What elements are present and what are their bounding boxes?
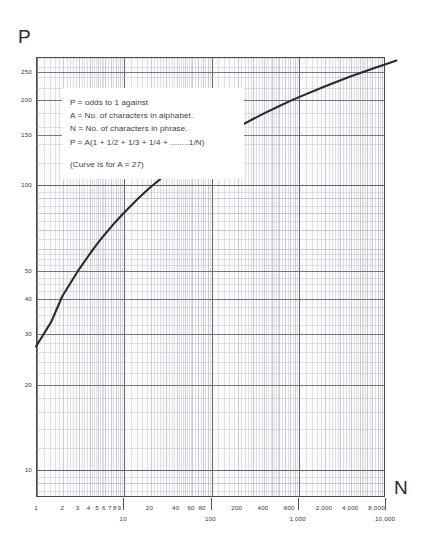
grid-line-horizontal — [37, 67, 384, 68]
grid-line-horizontal — [37, 315, 384, 316]
grid-line-horizontal — [37, 206, 384, 207]
x-tick-mark — [385, 498, 386, 510]
grid-line-horizontal — [37, 192, 384, 193]
annotation-line-2: N = No. of characters in phrase. — [70, 122, 238, 135]
grid-line-horizontal — [37, 185, 384, 186]
grid-line-horizontal — [37, 373, 384, 374]
x-tick-label: 10 — [120, 515, 127, 522]
x-axis-name-label: N — [394, 477, 408, 499]
y-tick-label: 10 — [0, 466, 32, 473]
grid-line-horizontal — [37, 198, 384, 199]
x-tick-label: 4,000 — [342, 504, 358, 511]
x-tick-label: 800 — [284, 504, 295, 511]
y-axis-name-label: P — [18, 26, 31, 48]
x-tick-label: 40 — [172, 504, 179, 511]
grid-line-horizontal — [37, 254, 384, 255]
grid-line-horizontal — [37, 259, 384, 260]
y-tick-label: 50 — [0, 267, 32, 274]
x-tick-label: 4 — [87, 504, 91, 511]
grid-line-horizontal — [37, 284, 384, 285]
grid-line-horizontal — [37, 352, 384, 353]
x-tick-label: 20 — [146, 504, 153, 511]
x-tick-mark — [298, 498, 299, 510]
grid-line-horizontal — [37, 491, 384, 492]
grid-line-horizontal — [37, 221, 384, 222]
grid-line-horizontal — [37, 448, 384, 449]
x-tick-mark — [123, 498, 124, 510]
x-tick-label: 5 — [95, 504, 99, 511]
x-tick-label: 200 — [231, 504, 242, 511]
x-tick-label: 100 — [205, 515, 216, 522]
grid-line-horizontal — [37, 429, 384, 430]
y-tick-label: 30 — [0, 330, 32, 337]
chart-page: P N 1020304050100150200250 1234567891020… — [0, 0, 426, 553]
y-tick-label: 40 — [0, 294, 32, 301]
x-tick-label: 1,000 — [290, 515, 306, 522]
y-tick-label: 150 — [0, 131, 32, 138]
grid-line-horizontal — [37, 249, 384, 250]
grid-line-horizontal — [37, 412, 384, 413]
y-tick-label: 250 — [0, 68, 32, 75]
x-tick-mark — [211, 498, 212, 510]
x-tick-label: 7 — [108, 504, 112, 511]
x-tick-label: 2 — [60, 504, 64, 511]
annotation-line-3: P = A(1 + 1/2 + 1/3 + 1/4 + ........1/N) — [70, 136, 238, 149]
x-tick-label: 3 — [76, 504, 80, 511]
annotation-line-0: P = odds to 1 against — [70, 96, 238, 109]
annotation-note: (Curve is for A = 27) — [70, 158, 238, 171]
grid-line-horizontal — [37, 343, 384, 344]
grid-line-horizontal — [37, 362, 384, 363]
x-tick-label: 8,000 — [368, 504, 384, 511]
x-tick-label: 2,000 — [316, 504, 332, 511]
grid-line-horizontal — [37, 325, 384, 326]
grid-line-horizontal — [37, 334, 384, 335]
x-tick-label: 10,000 — [375, 515, 395, 522]
grid-line-horizontal — [37, 213, 384, 214]
grid-line-horizontal — [37, 470, 384, 471]
grid-line-horizontal — [37, 271, 384, 272]
y-tick-label: 20 — [0, 380, 32, 387]
grid-line-horizontal — [37, 477, 384, 478]
grid-line-horizontal — [37, 291, 384, 292]
grid-line-horizontal — [37, 398, 384, 399]
x-tick-label: 1 — [34, 504, 38, 511]
grid-line-horizontal — [37, 385, 384, 386]
x-tick-label: 6 — [102, 504, 106, 511]
grid-line-vertical — [384, 58, 385, 496]
grid-line-horizontal — [37, 58, 384, 59]
x-tick-label: 80 — [198, 504, 205, 511]
y-tick-label: 200 — [0, 95, 32, 102]
grid-line-horizontal — [37, 239, 384, 240]
grid-line-horizontal — [37, 299, 384, 300]
x-tick-label: 9 — [117, 504, 121, 511]
grid-line-horizontal — [37, 307, 384, 308]
grid-line-horizontal — [37, 77, 384, 78]
x-tick-label: 400 — [258, 504, 269, 511]
grid-line-horizontal — [37, 72, 384, 73]
y-tick-label: 100 — [0, 181, 32, 188]
grid-line-horizontal — [37, 265, 384, 266]
annotation-line-1: A = No. of characters in alphabet. — [70, 109, 238, 122]
x-tick-label: 8 — [113, 504, 117, 511]
grid-line-horizontal — [37, 278, 384, 279]
annotation-textbox: P = odds to 1 against A = No. of charact… — [62, 88, 244, 179]
x-tick-label: 60 — [187, 504, 194, 511]
grid-line-horizontal — [37, 230, 384, 231]
grid-line-horizontal — [37, 483, 384, 484]
annotation-spacer — [70, 149, 238, 158]
